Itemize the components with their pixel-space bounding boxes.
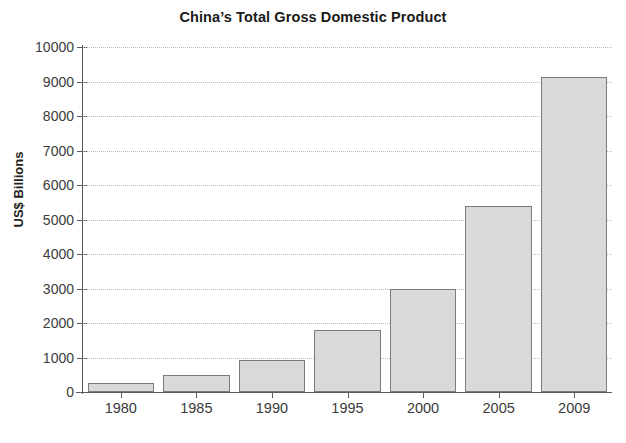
x-tick-mark — [423, 392, 424, 398]
bar-2005 — [465, 206, 532, 392]
y-tick-label: 7000 — [8, 144, 74, 158]
x-tick-label-1985: 1985 — [161, 401, 231, 417]
bar-1980 — [88, 383, 155, 392]
x-tick-label-1980: 1980 — [86, 401, 156, 417]
bar-1985 — [163, 375, 230, 392]
bar-2000 — [390, 289, 457, 393]
y-tick-label: 1000 — [8, 351, 74, 365]
x-tick-label-1995: 1995 — [313, 401, 383, 417]
x-tick-mark — [348, 392, 349, 398]
plot-area — [83, 47, 612, 392]
x-tick-mark — [121, 392, 122, 398]
y-tick-mark — [77, 392, 88, 393]
x-tick-mark — [272, 392, 273, 398]
x-tick-mark — [196, 392, 197, 398]
x-tick-label-2005: 2005 — [464, 401, 534, 417]
y-tick-label: 5000 — [8, 213, 74, 227]
bar-1995 — [314, 330, 381, 392]
y-tick-label: 9000 — [8, 75, 74, 89]
y-tick-label: 6000 — [8, 178, 74, 192]
x-tick-label-2009: 2009 — [539, 401, 609, 417]
chart-figure: China’s Total Gross Domestic Product US$… — [0, 0, 626, 443]
x-tick-label-2000: 2000 — [388, 401, 458, 417]
x-tick-label-1990: 1990 — [237, 401, 307, 417]
chart-title: China’s Total Gross Domestic Product — [0, 9, 626, 25]
y-tick-label: 3000 — [8, 282, 74, 296]
x-tick-mark — [574, 392, 575, 398]
y-tick-label: 0 — [8, 385, 74, 399]
bar-2009 — [541, 77, 608, 392]
y-tick-label: 10000 — [8, 40, 74, 54]
x-axis-line — [76, 392, 612, 393]
y-tick-label: 2000 — [8, 316, 74, 330]
bar-1990 — [239, 360, 306, 392]
y-tick-label: 8000 — [8, 109, 74, 123]
x-tick-mark — [499, 392, 500, 398]
y-tick-label: 4000 — [8, 247, 74, 261]
